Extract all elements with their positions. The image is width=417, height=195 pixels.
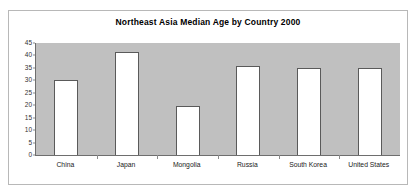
x-axis-label-china: China: [35, 161, 96, 168]
x-axis-labels: ChinaJapanMongoliaRussiaSouth KoreaUnite…: [35, 161, 399, 168]
chart-title: Northeast Asia Median Age by Country 200…: [9, 17, 407, 27]
x-axis-label-mongolia: Mongolia: [156, 161, 217, 168]
y-axis-tick-mark: [33, 105, 35, 106]
chart-frame: Northeast Asia Median Age by Country 200…: [8, 10, 408, 185]
y-axis-tick-label: 5: [28, 139, 32, 146]
x-axis-label-south-korea: South Korea: [278, 161, 339, 168]
y-axis-tick-mark: [33, 55, 35, 56]
plot-wrapper: 454035302520151050: [35, 43, 399, 155]
y-axis-tick-label: 45: [25, 40, 32, 47]
y-axis-tick-label: 15: [25, 114, 32, 121]
y-axis-tick-mark: [33, 92, 35, 93]
y-axis-tick-label: 30: [25, 77, 32, 84]
x-axis-tick-mark: [218, 155, 219, 159]
y-axis-tick-mark: [33, 80, 35, 81]
y-axis-tick-label: 25: [25, 90, 32, 97]
y-axis: 454035302520151050: [35, 43, 399, 155]
x-axis-tick-mark: [339, 155, 340, 159]
y-axis-tick-label: 35: [25, 65, 32, 72]
y-axis-tick-mark: [33, 117, 35, 118]
y-axis-tick-mark: [33, 67, 35, 68]
y-axis-tick-label: 40: [25, 52, 32, 59]
x-axis-label-russia: Russia: [217, 161, 278, 168]
x-axis-tick-mark: [97, 155, 98, 159]
y-axis-tick-label: 20: [25, 102, 32, 109]
y-axis-tick-mark: [33, 43, 35, 44]
y-axis-tick-mark: [33, 142, 35, 143]
y-axis-tick-mark: [33, 155, 35, 156]
y-axis-tick-mark: [33, 130, 35, 131]
x-axis-label-united-states: United States: [338, 161, 399, 168]
x-axis-tick-mark: [157, 155, 158, 159]
x-axis-label-japan: Japan: [96, 161, 157, 168]
y-axis-tick-label: 10: [25, 127, 32, 134]
y-axis-tick-label: 0: [28, 152, 32, 159]
x-axis-tick-mark: [279, 155, 280, 159]
x-axis-ticks: [36, 155, 400, 159]
